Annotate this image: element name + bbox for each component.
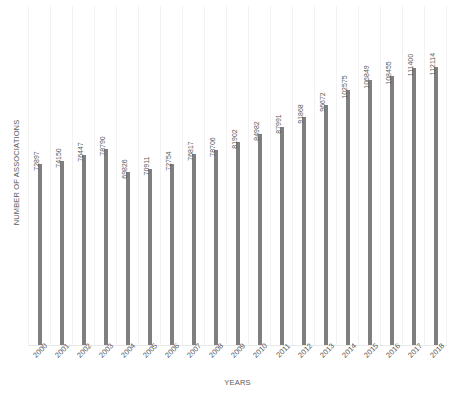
bar-slot: 70911 (139, 6, 161, 345)
bar-value-label: 78790 (99, 137, 106, 156)
bar-value-label: 112114 (429, 52, 436, 74)
bar-value-label: 111400 (407, 54, 414, 76)
x-axis-tick: 2011 (271, 345, 293, 379)
bar-slot: 112114 (425, 6, 447, 345)
x-axis-tick: 2004 (116, 345, 138, 379)
bar-slot: 69826 (117, 6, 139, 345)
x-axis-tick-label: 2001 (54, 342, 71, 359)
x-axis-tick: 2006 (160, 345, 182, 379)
bar-value-label: 102575 (341, 76, 348, 99)
x-axis-tick-label: 2014 (340, 342, 357, 359)
bar[interactable]: 74150 (60, 161, 64, 345)
bar-chart: NUMBER OF ASSOCIATIONS 72897741507644778… (0, 0, 451, 407)
bar[interactable]: 91868 (302, 117, 306, 345)
bar-slot: 102575 (337, 6, 359, 345)
x-axis-tick: 2000 (28, 345, 50, 379)
x-axis: 2000200120022003200420052006200720082009… (28, 345, 447, 379)
x-axis-tick-label: 2015 (362, 342, 379, 359)
x-axis-tick-label: 2011 (275, 342, 292, 359)
bar-value-label: 87991 (275, 114, 282, 133)
x-axis-tick: 2010 (248, 345, 270, 379)
bar[interactable]: 69826 (126, 172, 130, 345)
bar-value-label: 76447 (77, 142, 84, 161)
x-axis-tick: 2007 (182, 345, 204, 379)
x-axis-tick-label: 2012 (296, 342, 313, 359)
bar[interactable]: 72897 (38, 164, 42, 345)
bar-value-label: 69826 (121, 159, 128, 178)
bar[interactable]: 87991 (280, 127, 284, 345)
bar-slot: 81902 (227, 6, 249, 345)
bar-value-label: 91868 (297, 104, 304, 123)
x-axis-tick-label: 2017 (407, 342, 424, 359)
x-axis-tick: 2012 (293, 345, 315, 379)
bar-slot: 72897 (28, 6, 51, 345)
x-axis-tick: 2013 (315, 345, 337, 379)
bar-slot: 76817 (183, 6, 205, 345)
bar-value-label: 74150 (55, 148, 62, 167)
bar[interactable]: 78790 (104, 149, 108, 345)
x-axis-tick-label: 2008 (208, 342, 225, 359)
plot-area: 7289774150764477879069826709117275476817… (28, 6, 447, 346)
x-axis-tick-label: 2005 (142, 342, 159, 359)
bar-slot: 87991 (271, 6, 293, 345)
bar-value-label: 81902 (231, 129, 238, 148)
x-axis-tick-label: 2007 (186, 342, 203, 359)
bar-slot: 74150 (51, 6, 73, 345)
bar-value-label: 78706 (209, 137, 216, 156)
x-axis-tick-label: 2009 (230, 342, 247, 359)
bar-slot: 91868 (293, 6, 315, 345)
y-axis-title-label: NUMBER OF ASSOCIATIONS (13, 120, 22, 226)
bar-value-label: 108455 (385, 61, 392, 84)
bar[interactable]: 76447 (82, 155, 86, 345)
bar[interactable]: 111400 (412, 68, 416, 345)
bar-slot: 108455 (381, 6, 403, 345)
bar-slot: 111400 (403, 6, 425, 345)
x-axis-tick-label: 2003 (98, 342, 115, 359)
bar[interactable]: 102575 (346, 90, 350, 345)
bar[interactable]: 72754 (170, 164, 174, 345)
x-axis-title: YEARS (28, 378, 447, 387)
x-axis-tick: 2014 (337, 345, 359, 379)
x-axis-tick: 2008 (204, 345, 226, 379)
bar[interactable]: 78706 (214, 150, 218, 345)
x-axis-tick-label: 2004 (120, 342, 137, 359)
x-axis-tick-label: 2006 (164, 342, 181, 359)
x-axis-tick: 2002 (72, 345, 94, 379)
bar[interactable]: 70911 (148, 169, 152, 345)
bar-slot: 78790 (95, 6, 117, 345)
bar[interactable]: 81902 (236, 142, 240, 345)
bar-slot: 84982 (249, 6, 271, 345)
x-axis-tick: 2001 (50, 345, 72, 379)
bar[interactable]: 84982 (258, 134, 262, 345)
bar-slot: 78706 (205, 6, 227, 345)
x-axis-tick: 2009 (226, 345, 248, 379)
bar[interactable]: 96672 (324, 105, 328, 345)
x-axis-tick: 2018 (425, 345, 447, 379)
x-axis-tick-label: 2016 (385, 342, 402, 359)
bar[interactable]: 112114 (434, 67, 438, 345)
bar-value-label: 72897 (33, 151, 40, 170)
x-axis-tick: 2003 (94, 345, 116, 379)
bar-slot: 96672 (315, 6, 337, 345)
bar[interactable]: 106849 (368, 80, 372, 345)
bar-value-label: 84982 (253, 121, 260, 140)
x-axis-tick: 2017 (403, 345, 425, 379)
y-axis-title: NUMBER OF ASSOCIATIONS (8, 0, 26, 345)
bar-slot: 106849 (359, 6, 381, 345)
x-axis-tick-label: 2013 (318, 342, 335, 359)
bar-slot: 76447 (73, 6, 95, 345)
x-axis-tick: 2015 (359, 345, 381, 379)
bar-value-label: 72754 (165, 152, 172, 171)
bar-value-label: 76817 (187, 142, 194, 161)
x-axis-tick: 2016 (381, 345, 403, 379)
bar-value-label: 106849 (363, 65, 370, 88)
x-axis-tick-label: 2000 (32, 342, 49, 359)
bar[interactable]: 108455 (390, 76, 394, 345)
bar-value-label: 96672 (319, 92, 326, 111)
x-axis-tick-label: 2010 (252, 342, 269, 359)
bar-slot: 72754 (161, 6, 183, 345)
bar-value-label: 70911 (143, 156, 150, 175)
x-axis-tick: 2005 (138, 345, 160, 379)
x-axis-tick-label: 2018 (429, 342, 446, 359)
bar[interactable]: 76817 (192, 154, 196, 345)
